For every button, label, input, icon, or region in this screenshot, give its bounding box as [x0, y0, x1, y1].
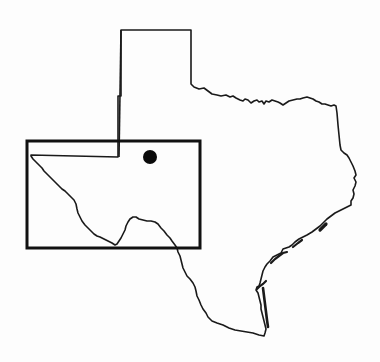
map-svg [0, 0, 380, 362]
coastal-bay-detail [257, 240, 302, 289]
texas-outline [31, 30, 356, 336]
locator-map: Texas locator map Study area (West Texas… [0, 0, 380, 362]
panhandle-west-border [119, 30, 121, 157]
site-marker-dot [143, 150, 157, 164]
